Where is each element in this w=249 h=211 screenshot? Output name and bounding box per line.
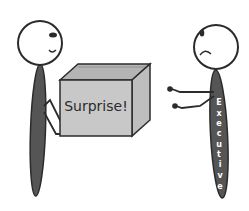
executive-arm-lower <box>176 96 214 108</box>
executive-letter: E <box>216 98 221 107</box>
executive-letter: v <box>217 171 223 180</box>
executive-eye <box>200 30 205 37</box>
box-label: Surprise! <box>64 98 128 114</box>
executive-letter: e <box>217 182 223 191</box>
executive-figure: E x e c u t i v e <box>167 25 238 198</box>
executive-letter: c <box>217 129 222 138</box>
giver-head <box>18 21 62 65</box>
executive-letter: i <box>219 160 222 169</box>
executive-letter: u <box>216 140 222 149</box>
executive-letter: t <box>217 150 221 159</box>
executive-arm-upper <box>172 89 214 92</box>
surprise-box: Surprise! <box>60 64 150 136</box>
executive-letter: e <box>216 119 222 128</box>
giver-eye <box>49 33 57 38</box>
cartoon-illustration: Surprise! E x e c u t i v e <box>0 0 249 211</box>
executive-hand-upper <box>167 86 173 92</box>
giver-figure <box>18 21 62 196</box>
executive-hand-lower <box>172 103 178 109</box>
executive-letter: x <box>216 109 222 118</box>
giver-body <box>28 64 48 196</box>
